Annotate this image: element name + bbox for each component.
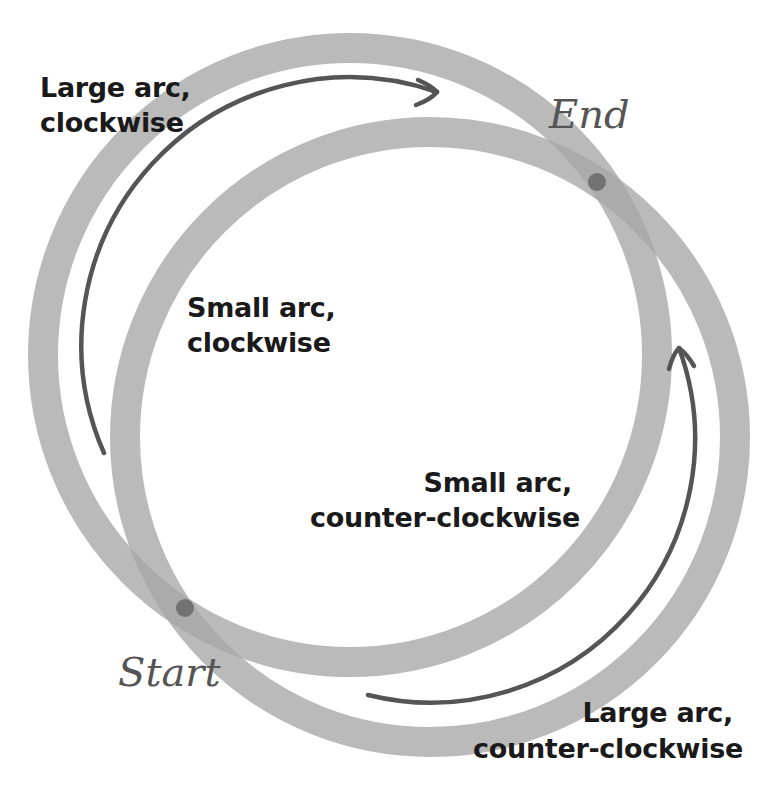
end-label: End	[548, 91, 630, 137]
start-point-marker	[176, 599, 194, 617]
end-point-marker	[588, 173, 606, 191]
label-small-cw-line2: clockwise	[187, 327, 331, 358]
label-small-arc-clockwise: Small arc, clockwise	[187, 292, 336, 358]
label-large-cw-line2: clockwise	[40, 107, 184, 138]
label-small-arc-counter-clockwise: Small arc, counter-clockwise	[310, 467, 580, 533]
endpoints	[176, 173, 606, 617]
arc-flags-diagram: Start End Large arc, clockwise Small arc…	[0, 0, 781, 800]
large-arc-clockwise-arrowhead-icon	[416, 80, 437, 105]
start-label: Start	[118, 649, 221, 695]
label-large-ccw-line1: Large arc,	[582, 697, 733, 728]
label-large-cw-line1: Large arc,	[40, 72, 191, 103]
label-large-ccw-line2: counter-clockwise	[473, 733, 743, 764]
label-small-cw-line1: Small arc,	[187, 292, 336, 323]
label-small-ccw-line2: counter-clockwise	[310, 502, 580, 533]
rings	[43, 48, 735, 742]
label-small-ccw-line1: Small arc,	[423, 467, 572, 498]
